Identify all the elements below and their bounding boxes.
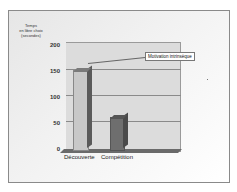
- category-label-decouverte: Découverte: [64, 154, 95, 160]
- bar-competition: [110, 119, 123, 151]
- y-tick-50: 50: [44, 120, 60, 126]
- y-tick-200: 200: [44, 42, 60, 48]
- y-tick-100: 100: [44, 94, 60, 100]
- y-axis-label: Temps en libre choix (secondes): [14, 23, 48, 38]
- bar-decouverte: [73, 72, 87, 151]
- y-tick-0: 0: [44, 146, 60, 152]
- category-label-competition: Compétition: [101, 154, 133, 160]
- y-axis-label-line-3: (secondes): [14, 33, 48, 38]
- y-tick-150: 150: [44, 68, 60, 74]
- speck: [207, 79, 208, 80]
- annotation-callout: Motivation intrinsèque: [145, 52, 195, 61]
